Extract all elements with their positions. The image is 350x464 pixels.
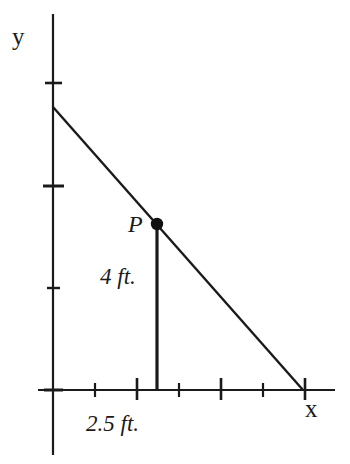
horizontal-measure-label: 2.5 ft. — [86, 412, 139, 435]
point-p-marker — [151, 218, 163, 230]
figure-canvas: y x P 4 ft. 2.5 ft. — [0, 0, 350, 464]
plot-svg — [0, 0, 350, 464]
point-p-label: P — [128, 212, 143, 236]
vertical-measure-label: 4 ft. — [100, 265, 136, 288]
x-axis-label: x — [305, 396, 318, 421]
sloped-line — [53, 107, 303, 390]
y-axis-label: y — [12, 24, 25, 49]
